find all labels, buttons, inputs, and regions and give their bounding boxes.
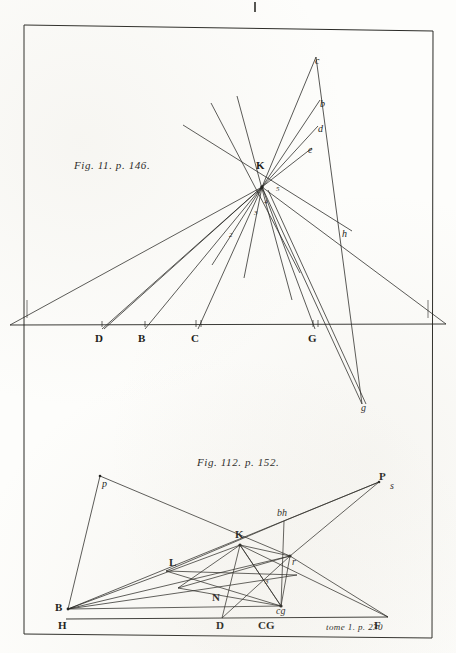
plate-drawing [0,0,456,653]
fig1-vertex-dot [260,185,264,189]
page-background [0,0,456,653]
engraved-plate: Fig. 11. p. 146. K D B C G c b d e h g 5… [0,0,456,653]
